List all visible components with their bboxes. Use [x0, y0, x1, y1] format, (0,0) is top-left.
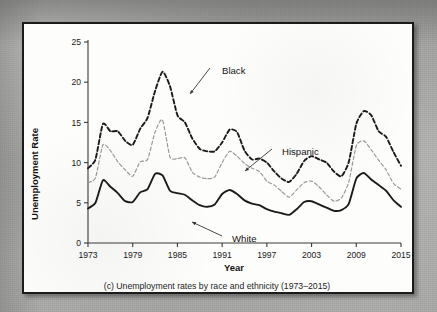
x-tick-label: 1991: [213, 250, 232, 260]
figure-inner: 0510152025197319791985199119972003200920…: [24, 24, 412, 292]
chart-canvas: 0510152025197319791985199119972003200920…: [24, 24, 412, 292]
figure-caption: (c) Unemployment rates by race and ethni…: [104, 281, 331, 291]
x-tick-label: 1979: [123, 250, 142, 260]
annotation-leader-line: [192, 222, 222, 236]
annotation-black: Black: [190, 65, 246, 94]
x-axis-title: Year: [224, 262, 244, 273]
series-label-white: White: [232, 233, 257, 244]
x-tick-label: 1973: [78, 250, 97, 260]
figure-panel: 0510152025197319791985199119972003200920…: [22, 22, 414, 294]
annotation-leader-line: [245, 149, 272, 171]
y-tick-label: 25: [71, 37, 81, 47]
x-tick-label: 2015: [391, 250, 410, 260]
y-tick-label: 20: [71, 77, 81, 87]
series-label-hispanic: Hispanic: [282, 146, 319, 157]
series-label-black: Black: [222, 65, 246, 76]
line-chart: 0510152025197319791985199119972003200920…: [24, 24, 411, 291]
y-tick-label: 15: [71, 118, 81, 128]
annotation-white: White: [192, 222, 257, 244]
annotation-leader-line: [190, 68, 210, 94]
series-line-white: [88, 173, 401, 215]
series-line-black: [88, 72, 401, 182]
x-tick-label: 2009: [347, 250, 366, 260]
y-tick-label: 10: [71, 158, 81, 168]
x-tick-label: 2003: [302, 250, 321, 260]
chart-series-group: [88, 72, 401, 215]
y-tick-label: 0: [76, 238, 81, 248]
y-axis-title: Unemployment Rate: [29, 128, 40, 220]
x-tick-label: 1997: [257, 250, 276, 260]
series-annotations: BlackHispanicWhite: [190, 65, 319, 244]
y-tick-label: 5: [76, 198, 81, 208]
x-tick-label: 1985: [168, 250, 187, 260]
